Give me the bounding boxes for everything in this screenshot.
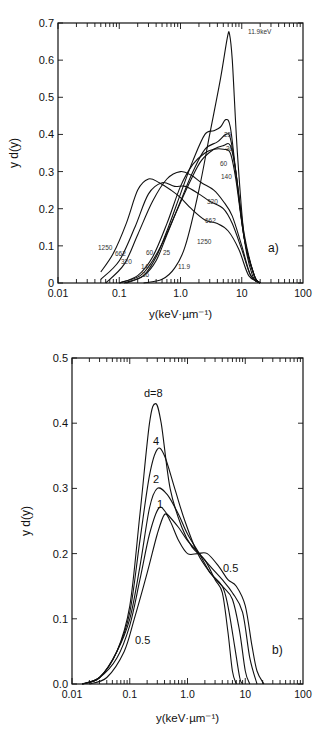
y-tick-label: 0.6 xyxy=(39,54,54,66)
curve-label: 25 xyxy=(224,131,232,138)
chart-panel-b: 0.010.11.0101000.00.10.20.30.40.5y d(y)y… xyxy=(19,352,312,724)
curve-label: 36 xyxy=(142,271,150,278)
y-tick-label: 0.1 xyxy=(39,240,54,252)
y-tick-label: 0.2 xyxy=(39,203,54,215)
x-tick-label: 0.1 xyxy=(112,287,127,299)
y-tick-label: 0.3 xyxy=(39,166,54,178)
curve-label: 60 xyxy=(146,249,154,256)
curve-label: 11.9 xyxy=(178,263,191,270)
y-tick-label: 0.3 xyxy=(53,482,68,494)
x-tick-label: 10 xyxy=(239,688,251,700)
x-tick-label: 100 xyxy=(294,287,312,299)
curve-label: 25 xyxy=(163,249,171,256)
curve-label: 662 xyxy=(205,217,216,224)
y-axis-label: y d(y) xyxy=(19,506,33,536)
curve-label: 1 xyxy=(157,498,163,510)
curve-0-5 xyxy=(89,514,264,684)
y-tick-label: 0 xyxy=(48,277,54,289)
figure: 0.010.11.01010000.10.20.30.40.50.60.7y d… xyxy=(0,0,323,732)
curve-label: 140 xyxy=(141,263,152,270)
curve-label: 0.5 xyxy=(135,634,150,646)
curve-d-8 xyxy=(82,404,236,684)
y-tick-label: 0.5 xyxy=(53,352,68,364)
curve-label: 0.5 xyxy=(223,562,238,574)
x-tick-label: 1.0 xyxy=(180,688,195,700)
curve-label: 1250 xyxy=(197,238,212,245)
y-axis-label: y d(y) xyxy=(7,138,21,168)
x-axis-label: y(keV·µm⁻¹) xyxy=(156,712,219,724)
panel-label: a) xyxy=(268,241,279,255)
x-tick-label: 10 xyxy=(236,287,248,299)
y-tick-label: 0.4 xyxy=(39,128,54,140)
curve-label: d=8 xyxy=(144,387,163,399)
curve-label: 1250 xyxy=(98,244,113,251)
x-tick-label: 1.0 xyxy=(173,287,188,299)
curve-label: 36 xyxy=(226,145,234,152)
curve-label: 320 xyxy=(207,198,218,205)
y-tick-label: 0.1 xyxy=(53,613,68,625)
plot-frame xyxy=(72,358,303,684)
y-tick-label: 0.2 xyxy=(53,548,68,560)
x-tick-label: 100 xyxy=(294,688,312,700)
curve-label: 662 xyxy=(115,250,126,257)
chart-panel-a: 0.010.11.01010000.10.20.30.40.50.60.7y d… xyxy=(7,17,312,320)
plot-frame xyxy=(58,23,303,283)
x-axis-label: y(keV·µm⁻¹) xyxy=(149,308,212,320)
y-tick-label: 0.4 xyxy=(53,417,68,429)
curve-2 xyxy=(82,488,250,684)
curve-label: 2 xyxy=(153,473,159,485)
y-tick-label: 0.5 xyxy=(39,91,54,103)
x-tick-label: 0.1 xyxy=(122,688,137,700)
curve-label: 60 xyxy=(220,160,228,167)
curve-label: 320 xyxy=(121,258,132,265)
y-tick-label: 0.0 xyxy=(53,678,68,690)
curve-label: 140 xyxy=(221,173,232,180)
y-tick-label: 0.7 xyxy=(39,17,54,29)
curve-label: 4 xyxy=(153,435,159,447)
curve-label: 11.9keV xyxy=(248,28,272,35)
panel-label: b) xyxy=(272,643,283,657)
